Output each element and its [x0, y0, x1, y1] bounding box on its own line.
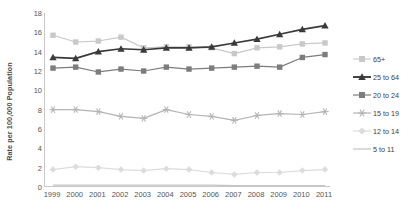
legend-item-12-to-14[interactable]: 12 to 14	[352, 122, 412, 140]
legend-item-label: 12 to 14	[373, 127, 399, 136]
legend-marker-triangle-icon	[352, 71, 372, 83]
x-axis-tick-2007: 2007	[225, 190, 242, 199]
x-axis-tick-2001: 2001	[89, 190, 106, 199]
x-axis-tick-labels: 1999200020012002200320042005200620072008…	[44, 190, 330, 208]
x-axis-tick-2005: 2005	[180, 190, 197, 199]
x-axis-tick-2006: 2006	[202, 190, 219, 199]
legend-item-label: 25 to 64	[373, 73, 399, 82]
y-axis-tick-6: 6	[20, 125, 42, 134]
y-axis-tick-2: 2	[20, 163, 42, 172]
legend-marker-diamond-icon	[352, 125, 372, 137]
legend-item-15-to-19[interactable]: 15 to 19	[352, 104, 412, 122]
legend-marker-star-icon	[352, 107, 372, 119]
series-20-to-24	[50, 52, 327, 75]
legend-item-label: 15 to 19	[373, 109, 399, 118]
series-15-to-19	[49, 107, 328, 124]
y-axis-tick-14: 14	[20, 47, 42, 56]
legend-item-65+[interactable]: 65+	[352, 50, 412, 68]
legend-marker-square-icon	[352, 53, 372, 65]
x-axis-tick-2003: 2003	[134, 190, 151, 199]
y-axis-tick-18: 18	[20, 9, 42, 18]
y-axis-tick-10: 10	[20, 86, 42, 95]
series-layer	[45, 13, 331, 187]
x-axis-tick-2002: 2002	[112, 190, 129, 199]
line-chart: Rate per 100,000 Population 024681012141…	[0, 0, 414, 223]
x-axis-tick-2000: 2000	[66, 190, 83, 199]
y-axis-tick-12: 12	[20, 67, 42, 76]
y-axis-tick-16: 16	[20, 28, 42, 37]
legend-item-label: 20 to 24	[373, 91, 399, 100]
y-axis-title-text: Rate per 100,000 Population	[5, 62, 14, 161]
legend-item-label: 65+	[373, 55, 385, 64]
legend-marker-square-icon	[352, 89, 372, 101]
series-12-to-14	[50, 163, 328, 177]
y-axis-tick-0: 0	[20, 183, 42, 192]
legend-marker-none-icon	[352, 143, 372, 155]
y-axis-tick-4: 4	[20, 144, 42, 153]
x-axis-tick-2008: 2008	[248, 190, 265, 199]
x-axis-tick-2010: 2010	[293, 190, 310, 199]
y-axis-tick-8: 8	[20, 105, 42, 114]
legend-item-5-to-11[interactable]: 5 to 11	[352, 140, 412, 158]
legend: 65+25 to 6420 to 2415 to 1912 to 145 to …	[352, 50, 412, 158]
x-axis-tick-2011: 2011	[316, 190, 332, 199]
legend-item-label: 5 to 11	[373, 145, 394, 154]
legend-item-20-to-24[interactable]: 20 to 24	[352, 86, 412, 104]
y-axis-tick-labels: 024681012141618	[14, 0, 42, 223]
legend-item-25-to-64[interactable]: 25 to 64	[352, 68, 412, 86]
x-axis-tick-1999: 1999	[44, 190, 61, 199]
x-axis-tick-2009: 2009	[270, 190, 287, 199]
x-axis-tick-2004: 2004	[157, 190, 174, 199]
plot-area	[44, 13, 330, 187]
